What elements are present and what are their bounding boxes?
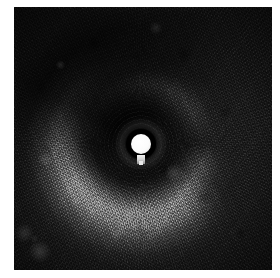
- page-root: [0, 0, 280, 278]
- catheter-guidewire-tip: [139, 161, 143, 165]
- ultrasound-image: [14, 7, 272, 270]
